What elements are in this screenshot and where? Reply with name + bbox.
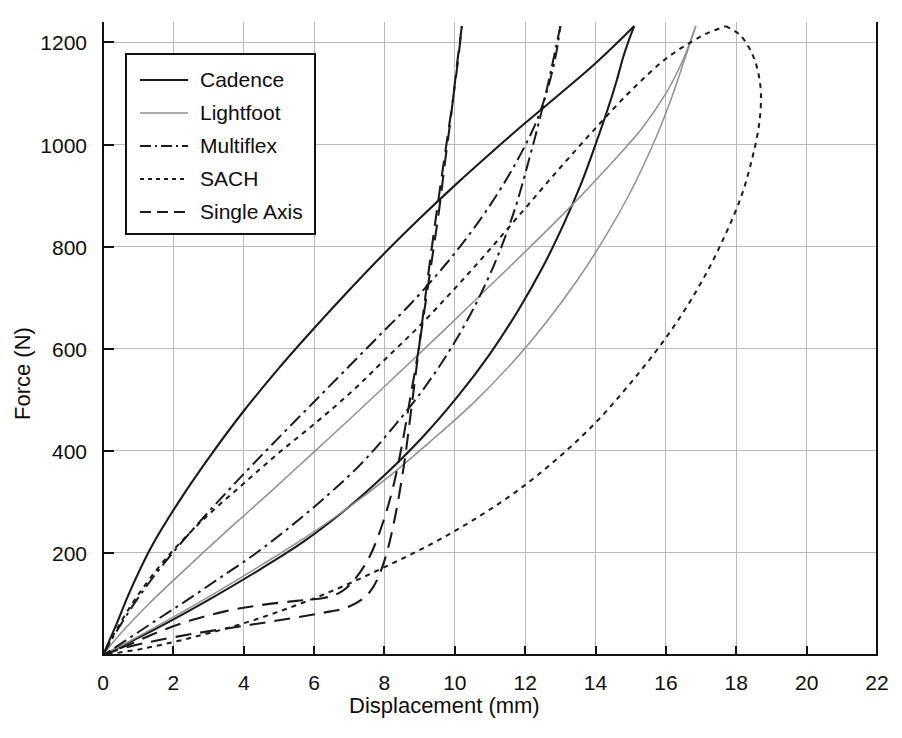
x-axis-title: Displacement (mm) — [349, 693, 540, 718]
legend-label-cadence: Cadence — [200, 68, 284, 91]
y-tick-label: 1200 — [40, 31, 87, 54]
y-axis-title: Force (N) — [10, 327, 35, 420]
x-tick-label: 18 — [725, 671, 748, 694]
x-tick-label: 4 — [238, 671, 250, 694]
legend-label-sach: SACH — [200, 167, 258, 190]
x-tick-label: 22 — [865, 671, 888, 694]
y-tick-label: 800 — [52, 236, 87, 259]
legend-label-single-axis: Single Axis — [200, 200, 303, 223]
legend-label-lightfoot: Lightfoot — [200, 101, 281, 124]
x-tick-label: 2 — [168, 671, 180, 694]
x-tick-label: 6 — [308, 671, 320, 694]
x-tick-label: 0 — [97, 671, 109, 694]
x-tick-label: 20 — [795, 671, 818, 694]
y-tick-labels: 20040060080010001200 — [40, 31, 87, 564]
x-tick-labels: 0246810121416182022 — [97, 671, 889, 694]
y-tick-label: 200 — [52, 542, 87, 565]
legend-label-multiflex: Multiflex — [200, 134, 278, 157]
x-tick-label: 10 — [443, 671, 466, 694]
y-tick-label: 600 — [52, 338, 87, 361]
y-tick-label: 400 — [52, 440, 87, 463]
chart-figure: 0246810121416182022 20040060080010001200… — [0, 0, 902, 738]
x-tick-label: 16 — [654, 671, 677, 694]
x-tick-label: 8 — [379, 671, 391, 694]
legend: CadenceLightfootMultiflexSACHSingle Axis — [126, 54, 315, 234]
x-tick-label: 12 — [514, 671, 537, 694]
x-tick-label: 14 — [584, 671, 608, 694]
y-tick-label: 1000 — [40, 134, 87, 157]
force-displacement-chart: 0246810121416182022 20040060080010001200… — [0, 0, 902, 738]
